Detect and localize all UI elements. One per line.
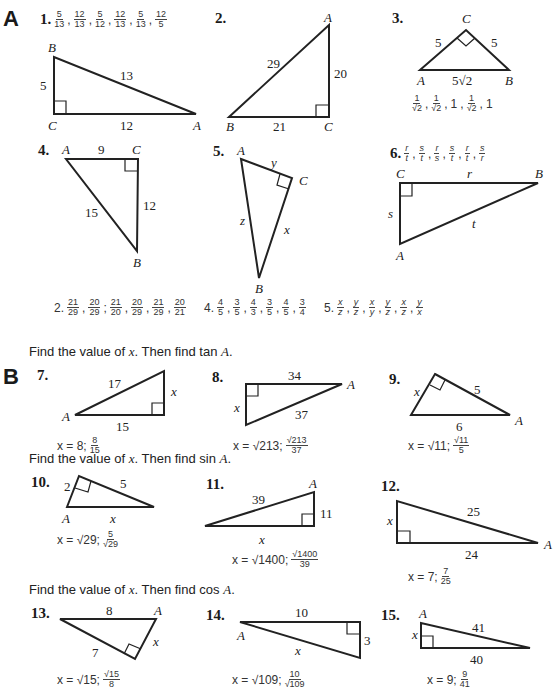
- vertex-b: B: [48, 40, 56, 56]
- instruction-tan: Find the value of x. Then find tan A.: [29, 344, 233, 360]
- side-label: 12: [143, 198, 156, 214]
- problem-7-number: 7.: [37, 367, 48, 384]
- triangle-13: [60, 619, 156, 659]
- side-label: 21: [273, 119, 286, 135]
- triangle-4: [66, 159, 138, 251]
- problem-10-number: 10.: [31, 474, 50, 491]
- vertex-b: B: [133, 255, 141, 271]
- side-label: 9: [98, 142, 105, 158]
- vertex-a: A: [324, 10, 332, 26]
- problem-4-number: 4.: [38, 142, 49, 159]
- side-label: 10: [295, 605, 308, 621]
- answer-5: 5. xz, yz, xy, yz, xz, yx: [324, 298, 423, 317]
- problem-13-number: 13.: [31, 605, 50, 622]
- vertex-a: A: [544, 537, 552, 553]
- problem-5-number: 5.: [213, 143, 224, 160]
- side-label: 12: [120, 118, 133, 134]
- side-label: 29: [267, 56, 280, 72]
- side-label: 41: [472, 620, 485, 636]
- vertex-a: A: [62, 511, 70, 527]
- side-label: t: [472, 216, 476, 232]
- side-label: 8: [106, 603, 113, 619]
- side-label: s: [388, 206, 393, 222]
- problem-6-ratios: 6. rt, st, rs, st, rt, sr: [390, 144, 485, 163]
- side-label: x: [110, 511, 116, 527]
- vertex-c: C: [132, 142, 141, 158]
- vertex-a: A: [347, 377, 355, 393]
- side-label: 40: [470, 652, 483, 668]
- problem-11-answer: x = √1400; √140039: [232, 550, 318, 569]
- side-label: x: [234, 400, 240, 416]
- side-label: 20: [334, 66, 347, 82]
- side-label: 5: [474, 382, 481, 398]
- triangle-6: [400, 183, 538, 244]
- side-label: 24: [465, 547, 478, 563]
- vertex-a: A: [419, 606, 427, 622]
- vertex-c: C: [299, 173, 308, 189]
- vertex-b: B: [255, 281, 263, 297]
- instruction-sin: Find the value of x. Then find sin A.: [29, 451, 231, 467]
- side-label: y: [271, 155, 277, 171]
- triangle-1: [54, 57, 196, 114]
- side-label: x: [153, 634, 159, 650]
- side-label: 39: [252, 492, 265, 508]
- vertex-a: A: [396, 248, 404, 264]
- vertex-a: A: [154, 603, 162, 619]
- side-label: x: [295, 643, 301, 659]
- vertex-c: C: [462, 11, 471, 27]
- answer-2: 2. 2129, 2029; 2120, 2029, 2129, 2021: [54, 298, 186, 317]
- side-label: x: [387, 513, 393, 529]
- side-label: 2: [64, 479, 71, 495]
- problem-13-answer: x = √15; √158: [57, 670, 120, 689]
- vertex-a: A: [417, 73, 425, 89]
- side-label: 34: [288, 368, 301, 384]
- problem-14-number: 14.: [206, 607, 225, 624]
- vertex-c: C: [324, 119, 333, 135]
- side-label: 5: [40, 78, 47, 94]
- side-label: 25: [467, 504, 480, 520]
- vertex-b: B: [535, 166, 543, 182]
- vertex-a: A: [237, 628, 245, 644]
- vertex-a: A: [237, 143, 245, 159]
- problem-8-number: 8.: [212, 369, 223, 386]
- problem-8-answer: x = √213; √21337: [233, 436, 308, 455]
- vertex-a: A: [193, 118, 201, 134]
- vertex-a: A: [515, 413, 523, 429]
- side-label: z: [240, 213, 245, 229]
- side-label: 13: [120, 68, 133, 84]
- problem-15-answer: x = 9; 941: [427, 670, 470, 689]
- side-label: 15: [85, 205, 98, 221]
- problem-6-number: 6.: [390, 145, 401, 162]
- answer-4: 4. 45, 35, 43, 35, 45, 34: [204, 298, 306, 317]
- problem-9-number: 9.: [389, 371, 400, 388]
- vertex-b: B: [226, 119, 234, 135]
- side-label: x: [414, 384, 420, 400]
- side-label: 5√2: [452, 73, 472, 89]
- vertex-c: C: [48, 118, 57, 134]
- side-label: x: [284, 222, 290, 238]
- section-label-b: B: [3, 364, 19, 390]
- vertex-a: A: [62, 409, 70, 425]
- problem-10-answer: x = √29; 5√29: [57, 530, 118, 549]
- problem-12-answer: x = 7; 725: [408, 567, 451, 586]
- problem-9-answer: x = √11; √115: [408, 436, 469, 455]
- problem-3-answer: 1√2, 1√2, 1, 1√2, 1: [412, 94, 493, 113]
- vertex-c: C: [396, 166, 405, 182]
- side-label: 15: [116, 419, 129, 435]
- triangle-5: [241, 159, 292, 278]
- instruction-cos: Find the value of x. Then find cos A.: [29, 582, 235, 598]
- side-label: r: [467, 166, 472, 182]
- problem-15-number: 15.: [381, 607, 400, 624]
- problem-12-number: 12.: [381, 478, 400, 495]
- side-label: 5: [120, 476, 127, 492]
- triangle-10: [67, 476, 154, 507]
- triangle-9: [411, 374, 510, 415]
- problem-14-answer: x = √109; 10√109: [232, 670, 305, 689]
- side-label: 6: [456, 419, 463, 435]
- side-label: 11: [320, 506, 333, 522]
- side-label: x: [259, 532, 265, 548]
- vertex-b: B: [505, 73, 513, 89]
- triangle-8: [246, 384, 342, 425]
- side-label: 5: [435, 35, 442, 51]
- side-label: 5: [491, 35, 498, 51]
